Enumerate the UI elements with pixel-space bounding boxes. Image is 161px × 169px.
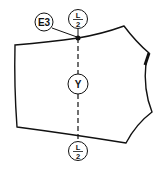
bottom-fraction-den: 2 (76, 152, 80, 161)
e3-label: E3 (38, 17, 51, 28)
top-fraction-callout: L 2 (69, 10, 88, 29)
bottom-fraction-callout: L 2 (69, 142, 88, 161)
top-fraction-den: 2 (76, 20, 80, 29)
y-callout: Y (68, 74, 88, 94)
e3-callout: E3 (35, 13, 53, 31)
notch-mark (145, 53, 149, 65)
e3-leader-line (52, 28, 77, 37)
panel-diagram: E3 L 2 Y L 2 (0, 0, 161, 169)
y-label: Y (75, 79, 82, 90)
